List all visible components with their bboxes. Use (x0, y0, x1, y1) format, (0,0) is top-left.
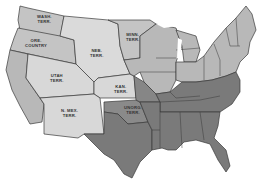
us-map (0, 0, 262, 182)
label-line: TERR. (126, 37, 140, 42)
label-unorg-terr: UNORG. TERR. (124, 105, 142, 115)
label-neb-terr: NEB. TERR. (90, 48, 104, 58)
label-nmex-terr: N. MEX. TERR. (61, 108, 78, 118)
label-line: TERR. (37, 19, 52, 24)
region-deep-south (140, 102, 230, 172)
label-ore-country: ORE. COUNTRY (25, 38, 47, 48)
label-minn-terr: MINN. TERR. (126, 32, 140, 42)
label-kan-terr: KAN. TERR. (114, 84, 128, 94)
label-line: TERR. (124, 110, 142, 115)
label-line: TERR. (50, 78, 64, 83)
label-utah-terr: UTAH TERR. (50, 73, 64, 83)
label-wash-terr: WASH. TERR. (37, 14, 52, 24)
label-line: TERR. (90, 53, 104, 58)
label-line: TERR. (61, 113, 78, 118)
label-line: COUNTRY (25, 43, 47, 48)
label-line: TERR. (114, 89, 128, 94)
